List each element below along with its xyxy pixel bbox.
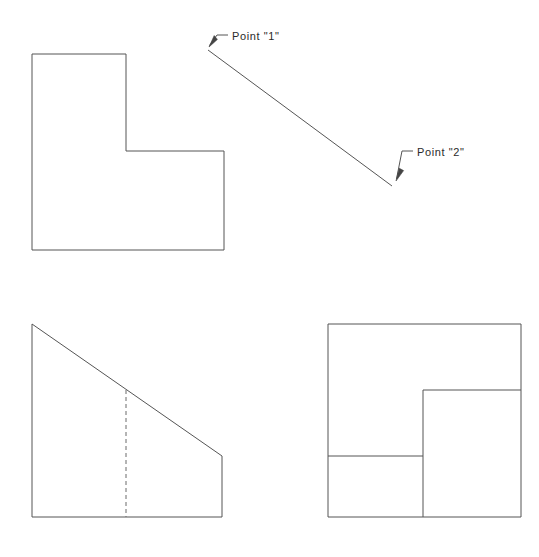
top-view-outline xyxy=(32,54,224,250)
point-one-arrowhead xyxy=(209,36,217,47)
point-two-label: Point "2" xyxy=(417,146,464,158)
top-view-group xyxy=(32,54,224,250)
pictorial-edge-line xyxy=(208,50,392,186)
front-view-outline xyxy=(32,324,222,517)
front-view-group xyxy=(32,324,222,517)
side-view-outline xyxy=(328,324,521,517)
point-one-label: Point "1" xyxy=(232,30,279,42)
side-view-group xyxy=(328,324,521,517)
point-two-annotation: Point "2" xyxy=(396,146,464,181)
technical-drawing-canvas: Point "1" Point "2" xyxy=(0,0,539,557)
pictorial-edge-group xyxy=(208,50,392,186)
point-one-annotation: Point "1" xyxy=(209,30,279,47)
